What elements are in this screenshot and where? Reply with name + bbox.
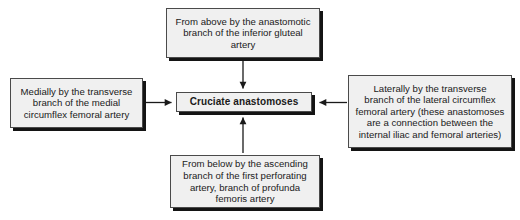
node-top-anastomotic-branch: From above by the anastomotic branch of … [166, 8, 320, 58]
node-left-label: Medially by the transverse branch of the… [15, 86, 138, 121]
node-bottom-first-perforating: From below by the ascending branch of th… [170, 155, 320, 208]
node-left-medial-circumflex: Medially by the transverse branch of the… [10, 78, 143, 128]
diagram-canvas: From above by the anastomotic branch of … [0, 0, 520, 220]
node-center-label: Cruciate anastomoses [181, 96, 307, 108]
node-right-label: Laterally by the transverse branch of th… [353, 83, 507, 141]
node-top-label: From above by the anastomotic branch of … [171, 16, 315, 51]
node-right-lateral-circumflex: Laterally by the transverse branch of th… [348, 75, 512, 148]
node-bottom-label: From below by the ascending branch of th… [175, 158, 315, 204]
node-center-cruciate-anastomoses: Cruciate anastomoses [176, 92, 312, 112]
